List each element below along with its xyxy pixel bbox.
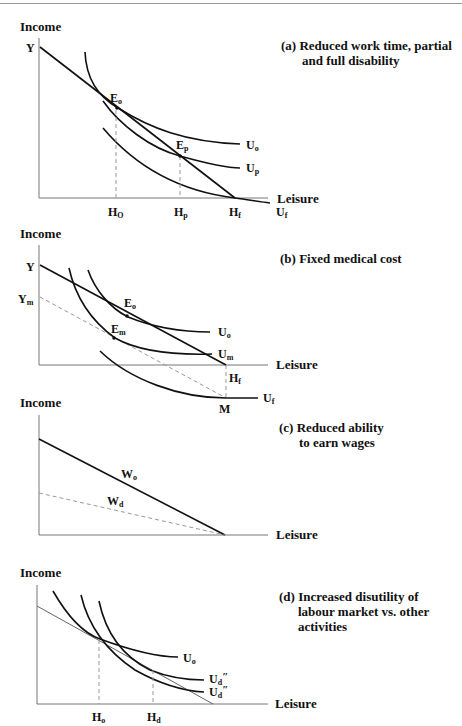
budget-line [40, 47, 235, 198]
label-uo: Uo [218, 325, 231, 340]
panel-a: Income (a) Reduced work time, partial an… [20, 19, 452, 220]
x-axis-label: Leisure [276, 527, 318, 542]
label-em: Em [111, 322, 126, 337]
x-axis-label: Leisure [275, 696, 317, 711]
indifference-curve-uo [85, 52, 240, 144]
indifference-curve-uf [103, 128, 270, 203]
panel-title-line2: labour market vs. other [298, 604, 429, 619]
panel-title-line2: to earn wages [299, 435, 375, 450]
label-wd: Wd [107, 494, 124, 509]
indifference-curve-uo [53, 591, 178, 657]
tick-hf: Hf [229, 205, 241, 220]
indifference-curve-um [69, 268, 212, 354]
panel-title: (c) Reduced ability [279, 420, 384, 435]
label-ep: Ep [176, 138, 189, 153]
label-uf: Uf [276, 205, 288, 220]
tick-ho: Ho [92, 710, 105, 725]
point-eo [125, 314, 129, 318]
budget-line [40, 265, 226, 365]
tick-ho: HO [108, 205, 124, 220]
panel-title-line3: activities [298, 619, 347, 634]
panel-b: Income (b) Fixed medical cost Leisure Y … [18, 226, 402, 416]
y-intercept-label: Y [26, 41, 35, 55]
budget-line-medical-cost [40, 297, 226, 398]
tick-hf: Hf [229, 371, 241, 386]
point-eo [115, 106, 119, 110]
label-eo: Eo [124, 296, 136, 311]
label-uo: Uo [246, 138, 259, 153]
wage-line-wd [39, 493, 225, 535]
tick-hp: Hp [174, 205, 188, 220]
label-uf: Uf [263, 391, 275, 406]
y-axis-label: Income [20, 19, 61, 34]
y-axis-label: Income [20, 226, 61, 241]
panel-title-line2: and full disability [302, 53, 400, 68]
label-ym: Ym [18, 292, 34, 307]
panel-d: Income (d) Increased disutility of labou… [20, 565, 429, 725]
panel-c: Income (c) Reduced ability to earn wages… [20, 395, 384, 542]
panel-title: (a) Reduced work time, partial [281, 38, 452, 53]
wage-line-wo [39, 439, 225, 535]
label-wo: Wo [121, 467, 137, 482]
label-y: Y [26, 260, 35, 274]
x-axis-label: Leisure [277, 191, 319, 206]
point-ep [178, 154, 182, 158]
indifference-curve-ud-1 [99, 601, 204, 680]
panel-title: (d) Increased disutility of [279, 589, 419, 604]
y-axis-label: Income [20, 395, 61, 410]
x-axis-label: Leisure [276, 357, 318, 372]
label-m: M [219, 402, 230, 416]
panel-title: (b) Fixed medical cost [280, 251, 402, 266]
label-eo: Eo [110, 91, 122, 106]
point-em [112, 336, 116, 340]
label-uo: Uo [183, 651, 196, 666]
label-um: Um [218, 347, 234, 362]
label-up: Up [246, 161, 260, 176]
figure-canvas: Income (a) Reduced work time, partial an… [0, 0, 462, 726]
tick-hd: Hd [147, 710, 161, 725]
y-axis-label: Income [20, 565, 61, 580]
